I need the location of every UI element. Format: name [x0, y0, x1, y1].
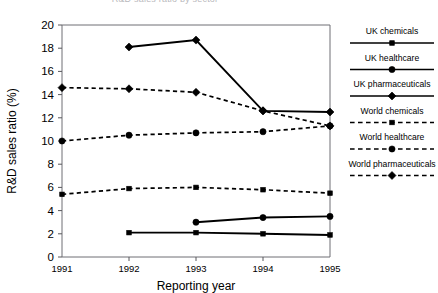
series-world-healthcare: [59, 123, 333, 144]
marker-circle: [126, 132, 132, 138]
marker-circle: [327, 213, 333, 219]
legend-entry-uk-chemicals[interactable]: UK chemicals: [350, 26, 434, 45]
series-path: [129, 233, 330, 235]
marker-circle: [389, 146, 395, 152]
x-tick-label: 1992: [118, 263, 139, 274]
series-uk-healthcare: [193, 213, 333, 225]
series-uk-chemicals: [127, 230, 333, 237]
marker-circle: [193, 219, 199, 225]
marker-square: [390, 41, 395, 46]
x-axis-title: Reporting year: [157, 279, 236, 293]
marker-square: [261, 232, 266, 237]
marker-circle: [260, 129, 266, 135]
legend-label: World pharmaceuticals: [348, 159, 435, 169]
y-tick-label: 16: [41, 65, 54, 77]
y-tick-label: 2: [48, 228, 54, 240]
y-tick-label: 14: [41, 89, 54, 101]
legend-label: UK healthcare: [365, 53, 420, 63]
marker-diamond: [125, 85, 133, 93]
legend-entry-world-healthcare[interactable]: World healthcare: [350, 132, 434, 152]
series-world-pharmaceuticals: [58, 84, 334, 130]
marker-diamond: [388, 92, 396, 100]
marker-square: [127, 186, 132, 191]
legend-label: UK pharmaceuticals: [354, 79, 431, 89]
marker-square: [261, 187, 266, 192]
y-tick-label: 6: [48, 181, 54, 193]
y-tick-label: 12: [41, 112, 54, 124]
marker-circle: [59, 138, 65, 144]
chart-legend: UK chemicalsUK healthcareUK pharmaceutic…: [348, 26, 435, 180]
data-series-layer: [58, 36, 334, 237]
legend-entry-uk-healthcare[interactable]: UK healthcare: [350, 53, 434, 73]
marker-circle: [260, 214, 266, 220]
chart-plot: 02468101214161820 19911992199319941995 R…: [0, 0, 438, 293]
y-tick-label: 0: [48, 251, 54, 263]
marker-diamond: [58, 84, 66, 92]
x-tick-label: 1994: [252, 263, 273, 274]
legend-label: World healthcare: [360, 132, 425, 142]
legend-entry-uk-pharmaceuticals[interactable]: UK pharmaceuticals: [350, 79, 434, 100]
marker-square: [127, 230, 132, 235]
marker-square: [328, 191, 333, 196]
marker-circle: [389, 66, 395, 72]
y-axis-title: R&D sales ratio (%): [5, 88, 19, 193]
marker-square: [60, 192, 65, 197]
y-tick-label: 20: [41, 19, 54, 31]
series-path: [129, 40, 330, 112]
marker-square: [194, 185, 199, 190]
series-uk-pharmaceuticals: [125, 36, 334, 116]
x-tick-label: 1993: [185, 263, 206, 274]
y-tick-label: 10: [41, 135, 54, 147]
y-tick-label: 4: [48, 205, 55, 217]
marker-diamond: [125, 43, 133, 51]
marker-diamond: [326, 108, 334, 116]
y-tick-label: 8: [48, 158, 54, 170]
y-tick-label: 18: [41, 42, 54, 54]
legend-entry-world-pharmaceuticals[interactable]: World pharmaceuticals: [348, 159, 435, 180]
legend-label: UK chemicals: [366, 26, 419, 36]
chart-container: R&D sales ratio by sector 02468101214161…: [0, 0, 438, 293]
legend-entry-world-chemicals[interactable]: World chemicals: [350, 106, 434, 125]
x-tick-label: 1995: [319, 263, 340, 274]
marker-diamond: [388, 172, 396, 180]
marker-square: [328, 233, 333, 238]
marker-circle: [193, 130, 199, 136]
marker-square: [390, 120, 395, 125]
marker-square: [194, 230, 199, 235]
legend-label: World chemicals: [361, 106, 424, 116]
series-world-chemicals: [60, 185, 333, 197]
marker-diamond: [326, 122, 334, 130]
x-axis-ticks: 19911992199319941995: [51, 257, 340, 274]
x-tick-label: 1991: [51, 263, 72, 274]
marker-diamond: [192, 88, 200, 96]
